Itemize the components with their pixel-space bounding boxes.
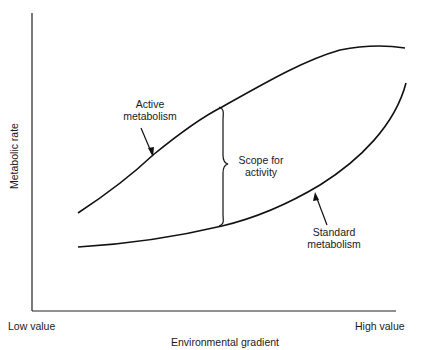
active-arrow-icon: [141, 128, 154, 157]
standard-label-line2: metabolism: [298, 238, 370, 250]
y-axis-title: Metabolic rate: [8, 116, 20, 196]
active-metabolism-label: Active metabolism: [116, 98, 184, 122]
active-metabolism-curve: [78, 46, 405, 213]
scope-label-line2: activity: [230, 166, 292, 178]
scope-brace: [219, 107, 228, 226]
x-tick-high: High value: [355, 320, 405, 332]
scope-label: Scope for activity: [230, 154, 292, 178]
x-axis-title: Environmental gradient: [155, 336, 295, 348]
standard-arrow-icon: [313, 192, 327, 225]
standard-label-line1: Standard: [298, 226, 370, 238]
x-tick-low: Low value: [8, 320, 55, 332]
active-label-line1: Active: [116, 98, 184, 110]
standard-metabolism-label: Standard metabolism: [298, 226, 370, 250]
diagram-canvas: [0, 0, 426, 350]
scope-label-line1: Scope for: [230, 154, 292, 166]
active-label-line2: metabolism: [116, 110, 184, 122]
